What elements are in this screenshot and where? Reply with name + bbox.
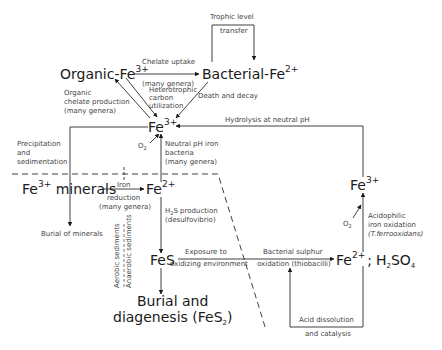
label-neutral-2: bacteria: [165, 149, 194, 157]
node-bacterial-fe: Bacterial-Fe2+: [202, 64, 298, 82]
label-trophic-2: transfer: [220, 27, 248, 35]
label-hetero-3: utilization: [149, 102, 183, 110]
label-precip-2: and: [17, 149, 30, 157]
label-o2-center: O2: [138, 142, 147, 151]
label-neutral-1: Neutral pH iron: [165, 140, 218, 148]
label-h2s-2: (desulfovibrio): [165, 216, 216, 224]
label-hetero-2: carbon: [149, 94, 173, 102]
label-hydrolysis: Hydrolysis at neutral pH: [225, 116, 310, 124]
label-anaerobic: Anaerobic sediments: [125, 214, 133, 288]
label-acido-2: iron oxidation: [368, 221, 416, 229]
label-trophic-1: Trophic level: [209, 13, 254, 21]
node-burial-line1: Burial and: [137, 293, 208, 309]
label-organic-2: chelate production: [64, 98, 130, 106]
label-acido-1: Acidophilic: [368, 212, 406, 220]
label-o2-right: O2: [343, 220, 352, 229]
node-burial-line2: diagenesis (FeS2): [113, 309, 232, 327]
label-iron-2: reduction: [107, 194, 140, 202]
label-iron-1: Iron: [117, 181, 131, 189]
label-acid-2: and catalysis: [305, 330, 351, 338]
label-burial-minerals: Burial of minerals: [41, 230, 103, 238]
label-organic-3: (many genera): [64, 107, 116, 115]
node-fe3-right: Fe3+: [350, 175, 379, 193]
label-precip-1: Precipitation: [17, 140, 61, 148]
node-fe2-h2so4: Fe2+;H2SO4: [336, 250, 416, 270]
label-neutral-3: (many genera): [165, 158, 217, 166]
label-acid-1: Acid dissolution: [299, 316, 354, 324]
iron-cycle-diagram: Organic-Fe3+ Bacterial-Fe2+ Fe3+ Fe3+ mi…: [0, 0, 442, 350]
label-iron-3: (many genera): [99, 203, 151, 211]
node-fe3-center: Fe3+: [148, 117, 177, 135]
label-exposure-1: Exposure to: [185, 248, 227, 256]
label-hetero-1: Heterotrophic: [149, 86, 197, 94]
label-acido-3: (T.ferrooxidans): [368, 230, 423, 238]
label-death-decay: Death and decay: [198, 92, 258, 100]
node-fe2-mid: Fe2+: [146, 179, 175, 197]
label-organic-1: Organic: [64, 89, 91, 97]
precipitation-arrow: [70, 127, 148, 226]
label-chelate-1: Chelate uptake: [142, 58, 195, 66]
label-exposure-2: oxidizing environment: [170, 260, 248, 268]
node-fe3-minerals: Fe3+ minerals: [22, 179, 116, 197]
label-aerobic: Aerobic sediments: [113, 223, 121, 288]
label-bact-sulphur-2: oxidation (thiobacilli): [257, 260, 331, 268]
hydrolysis-arrow: [176, 126, 363, 177]
label-precip-3: sedimentation: [17, 158, 67, 166]
o2-right-arrow: [353, 205, 361, 218]
label-h2s-1: H2S production: [165, 207, 218, 216]
label-bact-sulphur-1: Bacterial sulphur: [263, 248, 323, 256]
o2-center-arrow: [150, 134, 159, 143]
node-organic-fe: Organic-Fe3+: [60, 64, 149, 82]
